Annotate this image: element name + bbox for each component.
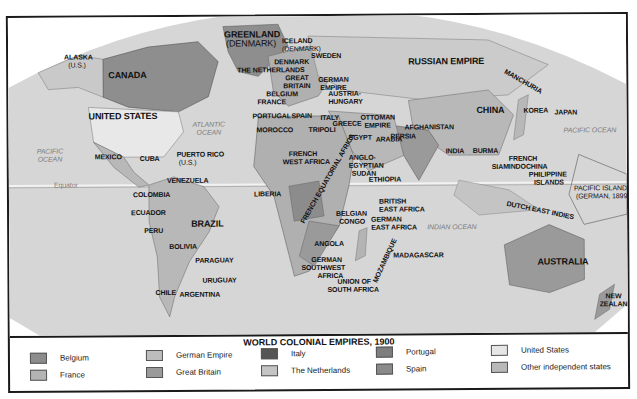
legend-item-france: France	[30, 369, 85, 380]
legend-item-german-empire: German Empire	[146, 350, 233, 362]
map-area: ALASKA (U.S.) CANADA GREENLAND (DENMARK)…	[8, 14, 628, 338]
label-alaska: ALASKA	[64, 53, 93, 60]
label-philippines-1: PHILIPPINE	[529, 170, 567, 177]
legend-label: France	[60, 370, 85, 379]
legend-label: German Empire	[176, 351, 233, 360]
legend-item-other-independent: Other independent states	[491, 361, 611, 373]
label-venezuela: VENEZUELA	[167, 177, 209, 184]
label-philippines-2: ISLANDS	[534, 178, 564, 185]
label-austria-1: AUSTRIA-	[328, 90, 361, 97]
label-iceland: ICELAND	[282, 37, 312, 44]
label-france: FRANCE	[257, 98, 286, 105]
label-pacific-islands-1: PACIFIC ISLANDS	[574, 184, 628, 191]
label-union-sa-2: SOUTH AFRICA	[328, 286, 379, 293]
label-pacific-west-1: PACIFIC	[37, 148, 63, 155]
label-atlantic-2: OCEAN	[197, 129, 221, 136]
label-atlantic-1: ATLANTIC	[192, 121, 225, 128]
label-madagascar: MADAGASCAR	[393, 251, 443, 258]
label-british-east-africa-1: BRITISH	[379, 197, 406, 204]
label-mexico: MEXICO	[95, 153, 122, 160]
label-union-sa-1: UNION OF	[337, 278, 370, 285]
legend-label: United States	[521, 345, 569, 354]
label-equator: Equator	[54, 181, 78, 188]
legend-label: Italy	[291, 349, 306, 358]
swatch-united-states	[491, 345, 508, 356]
label-united-states: UNITED STATES	[88, 113, 157, 120]
label-arabia: ARABIA	[376, 135, 403, 142]
label-german-east-africa-1: GERMAN	[371, 215, 402, 222]
label-great-britain-2: BRITAIN	[283, 82, 310, 89]
label-belgium: BELGIUM	[266, 90, 298, 97]
label-burma: BURMA	[473, 147, 499, 154]
label-japan: JAPAN	[554, 108, 577, 115]
label-denmark: DENMARK	[274, 58, 309, 65]
legend-item-united-states: United States	[491, 344, 569, 355]
label-new-zealand-2: ZEALAND	[600, 300, 628, 307]
label-ethiopia: ETHIOPIA	[369, 175, 401, 182]
legend-label: Other independent states	[521, 362, 611, 372]
label-alaska-owner: (U.S.)	[68, 61, 86, 68]
label-pacific-islands-2: (GERMAN, 1899)	[576, 192, 628, 199]
label-morocco: MOROCCO	[257, 126, 294, 133]
legend-label: Spain	[406, 364, 427, 373]
label-brazil: BRAZIL	[191, 221, 223, 228]
label-china: CHINA	[476, 107, 504, 114]
swatch-belgium	[30, 353, 47, 364]
label-ottoman-1: OTTOMAN	[360, 114, 395, 121]
swatch-netherlands	[261, 365, 278, 376]
label-sweden: SWEDEN	[311, 52, 341, 59]
label-indian-ocean: INDIAN OCEAN	[427, 223, 476, 230]
label-peru: PERU	[144, 227, 163, 234]
label-french-west-africa-2: WEST AFRICA	[283, 158, 330, 165]
label-french-west-africa-1: FRENCH	[289, 150, 318, 157]
legend-item-great-britain: Great Britain	[146, 367, 221, 378]
label-german-sw-africa-1: GERMAN	[311, 256, 342, 263]
label-canada: CANADA	[108, 72, 146, 79]
label-belgian-congo-1: BELGIAN	[336, 210, 367, 217]
label-bolivia: BOLIVIA	[169, 243, 197, 250]
legend: WORLD COLONIAL EMPIRES, 1900 Belgium Fra…	[10, 332, 628, 393]
label-belgian-congo-2: CONGO	[339, 218, 365, 225]
label-tripoli: TRIPOLI	[309, 126, 336, 133]
swatch-other-independent	[491, 362, 508, 373]
label-greece: GREECE	[332, 120, 361, 127]
label-anglo-egyptian-1: ANGLO-	[349, 154, 376, 161]
label-german-east-africa-2: EAST AFRICA	[371, 223, 417, 230]
label-great-britain-1: GREAT	[285, 74, 309, 81]
label-siam: SIAM	[492, 163, 509, 170]
label-new-zealand-1: NEW	[606, 292, 622, 299]
label-cuba: CUBA	[140, 155, 160, 162]
label-afghanistan: AFGHANISTAN	[405, 123, 454, 130]
legend-label: Great Britain	[176, 368, 221, 377]
label-netherlands: THE NETHERLANDS	[237, 66, 304, 73]
label-anglo-egyptian-2: EGYPTIAN	[349, 162, 384, 169]
legend-item-belgium: Belgium	[30, 352, 89, 363]
label-ottoman-2: EMPIRE	[365, 122, 391, 129]
label-uruguay: URUGUAY	[202, 276, 236, 283]
label-argentina: ARGENTINA	[180, 291, 221, 298]
label-greenland-owner: (DENMARK)	[226, 40, 276, 47]
map-frame: ALASKA (U.S.) CANADA GREENLAND (DENMARK)…	[6, 12, 630, 393]
swatch-france	[30, 370, 47, 381]
label-australia: AUSTRALIA	[537, 258, 588, 265]
legend-item-netherlands: The Netherlands	[261, 365, 350, 377]
legend-item-italy: Italy	[261, 348, 306, 359]
label-colombia: COLOMBIA	[133, 191, 170, 198]
label-liberia: LIBERIA	[254, 190, 281, 197]
legend-label: The Netherlands	[291, 366, 350, 375]
legend-item-spain: Spain	[376, 363, 427, 374]
label-spain: SPAIN	[291, 112, 311, 119]
label-portugal: PORTUGAL	[252, 112, 291, 119]
label-british-east-africa-2: EAST AFRICA	[379, 205, 425, 212]
label-ecuador: ECUADOR	[131, 209, 166, 216]
label-russian-empire: RUSSIAN EMPIRE	[408, 58, 484, 65]
swatch-german-empire	[146, 350, 163, 361]
label-india: INDIA	[446, 147, 465, 154]
label-korea: KOREA	[523, 107, 548, 114]
label-chile: CHILE	[156, 289, 177, 296]
legend-label: Belgium	[60, 353, 89, 362]
label-french-indochina-1: FRENCH	[509, 155, 538, 162]
label-angola: ANGOLA	[314, 240, 344, 247]
swatch-portugal	[376, 347, 393, 358]
swatch-italy	[261, 348, 278, 359]
